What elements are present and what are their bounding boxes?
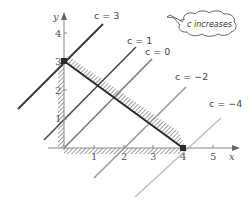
x-tick-label: 4: [180, 151, 186, 162]
callout-cloud: c increases: [167, 11, 236, 36]
x-tick-label: 2: [121, 151, 127, 162]
level-lines: [18, 24, 221, 197]
callout-text: c increases: [187, 20, 232, 29]
lp-diagram: 1 2 3 4 5 1 2 3 4 x y c = 3 c = 1 c = 0 …: [0, 0, 251, 201]
level-label-c3: c = 3: [94, 10, 119, 21]
y-tick-label: 1: [55, 113, 61, 124]
level-label-c1: c = 1: [127, 35, 152, 46]
level-line-c-4: [135, 118, 221, 197]
x-tick-label: 1: [91, 151, 97, 162]
level-label-c0: c = 0: [145, 46, 170, 57]
level-label-c-4: c = −4: [209, 98, 242, 109]
vertex-point-0-3: [61, 58, 67, 64]
y-tick-label: 4: [55, 28, 61, 39]
level-label-c-2: c = −2: [175, 71, 208, 82]
y-axis-label: y: [52, 11, 59, 22]
y-tick-label: 3: [55, 56, 61, 67]
y-axis-arrow-icon: [61, 12, 67, 20]
x-tick-label: 5: [210, 151, 216, 162]
y-tick-label: 2: [55, 85, 61, 96]
constraint-line: [64, 61, 183, 148]
x-tick-label: 3: [150, 151, 156, 162]
hatch-y-axis: [58, 62, 64, 148]
x-axis-label: x: [229, 151, 235, 162]
